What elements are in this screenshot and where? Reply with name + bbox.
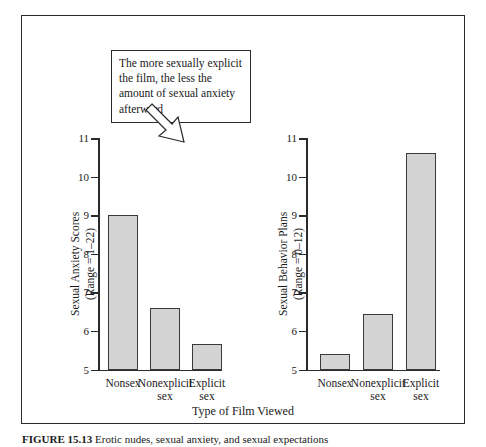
y-tick-right-10 (299, 177, 306, 179)
y-tick-left-10 (91, 177, 98, 179)
x-category-label-right-2: Explicitsex (403, 377, 439, 403)
x-category-line: sex (157, 390, 172, 402)
bar-right-1 (363, 314, 393, 370)
x-category-line: sex (370, 390, 385, 402)
chart-panel-right: The more sexually explicit the film, the… (244, 16, 466, 423)
y-tick-label-right-5: 5 (292, 364, 298, 375)
y-tick-right-9 (299, 215, 306, 217)
y-tick-label-left-11: 11 (78, 133, 89, 144)
y-tick-left-8 (91, 254, 98, 256)
figure-caption-number: FIGURE 15.13 (22, 433, 92, 445)
y-tick-left-6 (91, 331, 98, 333)
chart-panel-left: The more sexually explicit the film, the… (22, 16, 244, 423)
x-category-label-right-0: Nonsex (317, 377, 352, 390)
x-axis-title: Type of Film Viewed (22, 404, 464, 419)
y-axis-label-left: Sexual Anxiety Scores (Range = 1–22) (68, 212, 98, 316)
y-tick-label-right-10: 10 (286, 171, 297, 182)
y-tick-label-right-8: 8 (292, 248, 298, 259)
x-category-label-left-0: Nonsex (105, 377, 140, 390)
x-axis-left (98, 370, 222, 372)
x-category-line: Explicit (403, 377, 439, 389)
bar-right-2 (406, 153, 436, 369)
x-category-line: sex (199, 390, 214, 402)
x-category-line: Nonexplicit (351, 377, 405, 389)
x-category-label-left-2: Explicitsex (189, 377, 225, 403)
y-tick-label-right-6: 6 (292, 325, 298, 336)
bar-left-0 (108, 215, 138, 369)
y-axis-left (98, 138, 100, 371)
x-category-label-right-1: Nonexplicitsex (351, 377, 405, 403)
y-tick-left-5 (91, 370, 98, 372)
y-axis-label-right-line1: Sexual Behavior Plans (277, 212, 289, 316)
y-tick-label-left-6: 6 (84, 325, 90, 336)
y-tick-right-11 (299, 138, 306, 140)
x-category-line: Explicit (189, 377, 225, 389)
y-tick-left-7 (91, 292, 98, 294)
figure-frame: The more sexually explicit the film, the… (21, 15, 465, 424)
y-tick-label-left-10: 10 (78, 171, 89, 182)
y-tick-right-5 (299, 370, 306, 372)
y-tick-label-right-9: 9 (292, 210, 298, 221)
y-axis-right (306, 138, 308, 371)
y-tick-label-right-11: 11 (286, 133, 297, 144)
y-tick-label-left-8: 8 (84, 248, 90, 259)
bar-left-2 (192, 344, 222, 369)
figure-caption-text: Erotic nudes, sexual anxiety, and sexual… (95, 433, 328, 445)
y-tick-left-9 (91, 215, 98, 217)
y-tick-left-11 (91, 138, 98, 140)
x-axis-right (306, 370, 440, 372)
figure-caption: FIGURE 15.13 Erotic nudes, sexual anxiet… (22, 433, 482, 447)
y-tick-label-right-7: 7 (292, 287, 298, 298)
y-tick-label-left-9: 9 (84, 210, 90, 221)
plot-area-left: 567891011 NonsexNonexplicitsexExplicitse… (98, 138, 222, 371)
y-axis-label-right: Sexual Behavior Plans (Range = 0–12) (276, 212, 306, 316)
x-category-line: Nonsex (105, 377, 140, 389)
x-category-line: sex (413, 390, 428, 402)
y-tick-right-7 (299, 292, 306, 294)
y-tick-right-6 (299, 331, 306, 333)
plot-area-right: 567891011 NonsexNonexplicitsexExplicitse… (306, 138, 440, 371)
bar-right-0 (320, 354, 350, 369)
y-axis-label-left-line1: Sexual Anxiety Scores (69, 212, 81, 316)
x-category-line: Nonsex (317, 377, 352, 389)
y-tick-label-left-5: 5 (84, 364, 90, 375)
y-tick-label-left-7: 7 (84, 287, 90, 298)
x-category-line: Nonexplicit (138, 377, 192, 389)
x-category-label-left-1: Nonexplicitsex (138, 377, 192, 403)
y-tick-right-8 (299, 254, 306, 256)
bar-left-1 (150, 308, 180, 370)
